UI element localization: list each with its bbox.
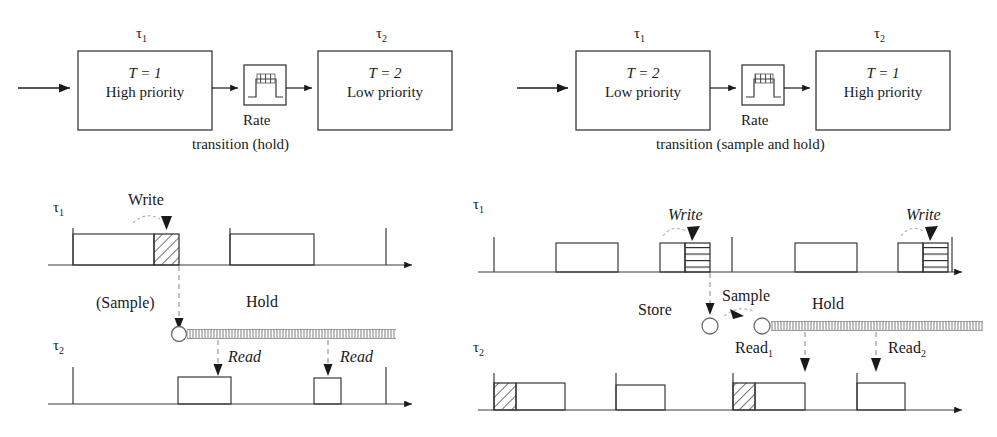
tau-subscript: 1 [479, 204, 484, 215]
left-block-caption-line2: transition (hold) [192, 137, 289, 152]
left-block-dest-task-label: τ2 [376, 26, 387, 44]
right-timing-hold-label: Hold [812, 296, 844, 312]
right-timing-row1-label: τ1 [473, 197, 484, 215]
left-block-source-task-label: τ1 [136, 26, 147, 44]
right-timing-read2-label: Read2 [888, 340, 926, 359]
tau-subscript: 1 [59, 207, 64, 218]
left-timing-hold-label: Hold [246, 294, 278, 310]
dest-priority-text: Low priority [318, 83, 452, 102]
right-timing-store-label: Store [638, 302, 672, 318]
right-block-source-task-label: τ1 [634, 26, 645, 44]
right-timing-vectors [478, 226, 983, 410]
right-block-caption-line1: Rate [741, 113, 769, 128]
read1-text: Read [735, 339, 768, 356]
left-timing-write-label: Write [128, 192, 164, 208]
source-priority-text: Low priority [576, 83, 710, 102]
left-timing-row2-label: τ2 [53, 338, 64, 356]
tau-subscript: 2 [479, 347, 484, 358]
read1-subscript: 1 [768, 348, 773, 359]
right-timing-read1-label: Read1 [735, 340, 773, 359]
read2-text: Read [888, 339, 921, 356]
left-timing-read2-label: Read [340, 349, 373, 365]
left-block-dest-box-text: T = 2 Low priority [318, 64, 452, 102]
source-period-text: T = 1 [78, 64, 212, 83]
right-block-caption-line2: transition (sample and hold) [656, 137, 825, 152]
left-timing-row1-label: τ1 [53, 200, 64, 218]
right-timing-write2-label: Write [906, 207, 941, 223]
left-block-source-box-text: T = 1 High priority [78, 64, 212, 102]
source-period-text: T = 2 [576, 64, 710, 83]
tau-subscript: 2 [382, 33, 387, 44]
tau-subscript: 1 [640, 33, 645, 44]
figure-canvas: τ1 τ2 T = 1 High priority T = 2 Low prio… [0, 0, 997, 437]
read2-subscript: 2 [921, 348, 926, 359]
tau-subscript: 2 [59, 345, 64, 356]
tau-subscript: 1 [142, 33, 147, 44]
right-timing-sample-label: Sample [722, 288, 770, 304]
right-timing-write1-label: Write [668, 207, 703, 223]
left-block-caption-line1: Rate [243, 113, 271, 128]
right-block-source-box-text: T = 2 Low priority [576, 64, 710, 102]
dest-period-text: T = 2 [318, 64, 452, 83]
tau-subscript: 2 [880, 33, 885, 44]
right-timing-row2-label: τ2 [473, 340, 484, 358]
dest-priority-text: High priority [816, 83, 950, 102]
left-timing-read1-label: Read [228, 349, 261, 365]
right-block-dest-task-label: τ2 [874, 26, 885, 44]
left-timing-sample-label: (Sample) [96, 295, 155, 311]
dest-period-text: T = 1 [816, 64, 950, 83]
right-block-dest-box-text: T = 1 High priority [816, 64, 950, 102]
source-priority-text: High priority [78, 83, 212, 102]
